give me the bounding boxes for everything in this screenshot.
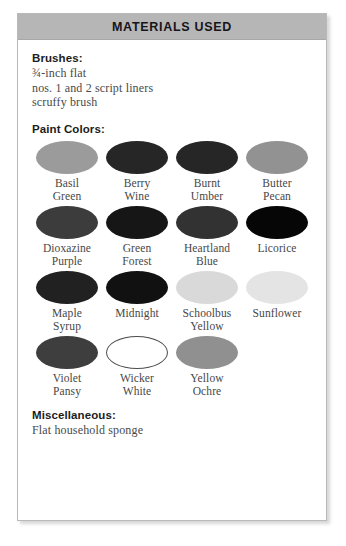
swatch-cell: Violet Pansy bbox=[32, 336, 102, 399]
swatch-label-line1: Heartland bbox=[184, 242, 230, 254]
swatch-label-line1: Violet bbox=[53, 372, 82, 384]
swatch-label: Licorice bbox=[257, 242, 296, 256]
brushes-section: Brushes: ¾-inch flat nos. 1 and 2 script… bbox=[32, 52, 312, 110]
color-swatch-oval bbox=[106, 271, 168, 304]
swatch-cell: Berry Wine bbox=[102, 141, 172, 204]
color-swatch-oval bbox=[36, 206, 98, 239]
color-swatch-oval bbox=[106, 206, 168, 239]
swatch-label: Burnt Umber bbox=[191, 177, 223, 204]
color-swatch-oval bbox=[176, 206, 238, 239]
swatch-label-line1: Wicker bbox=[120, 372, 154, 384]
color-swatch-oval bbox=[246, 206, 308, 239]
swatch-label-line2: Pansy bbox=[53, 385, 82, 399]
color-swatch-oval bbox=[176, 271, 238, 304]
miscellaneous-section: Miscellaneous: Flat household sponge bbox=[32, 409, 312, 438]
swatch-cell: Dioxazine Purple bbox=[32, 206, 102, 269]
swatch-cell: Wicker White bbox=[102, 336, 172, 399]
color-swatch-oval bbox=[106, 141, 168, 174]
swatch-cell: Schoolbus Yellow bbox=[172, 271, 242, 334]
paint-colors-section: Paint Colors: Basil Green bbox=[32, 123, 312, 399]
swatch-label-line2: Forest bbox=[122, 255, 151, 269]
swatch-cell: Sunflower bbox=[242, 271, 312, 334]
swatch-label: Violet Pansy bbox=[53, 372, 82, 399]
color-swatch-oval bbox=[36, 141, 98, 174]
swatch-label-line1: Maple bbox=[52, 307, 82, 319]
swatch-label: Berry Wine bbox=[124, 177, 151, 204]
color-swatch-oval bbox=[246, 141, 308, 174]
swatch-label-line2: Yellow bbox=[183, 320, 232, 334]
swatch-label-line2: Pecan bbox=[262, 190, 291, 204]
panel-body: Brushes: ¾-inch flat nos. 1 and 2 script… bbox=[18, 40, 326, 447]
swatch-cell: Heartland Blue bbox=[172, 206, 242, 269]
swatch-label-line1: Schoolbus bbox=[183, 307, 232, 319]
color-swatch-oval bbox=[106, 336, 168, 369]
swatch-label: Butter Pecan bbox=[262, 177, 291, 204]
swatch-label-line1: Yellow bbox=[190, 372, 223, 384]
brushes-item: nos. 1 and 2 script liners bbox=[32, 81, 312, 96]
swatch-cell: Maple Syrup bbox=[32, 271, 102, 334]
color-swatch-oval bbox=[176, 336, 238, 369]
brushes-item: scruffy brush bbox=[32, 95, 312, 110]
swatch-row: Maple Syrup Midnight bbox=[32, 271, 312, 334]
swatch-cell: Midnight bbox=[102, 271, 172, 334]
swatch-label-line2: Umber bbox=[191, 190, 223, 204]
swatch-label-line1: Berry bbox=[124, 177, 151, 189]
brushes-heading: Brushes: bbox=[32, 52, 312, 64]
paint-colors-heading: Paint Colors: bbox=[32, 123, 312, 135]
paint-swatch-grid: Basil Green Berry Wine bbox=[32, 141, 312, 399]
page-root: MATERIALS USED Brushes: ¾-inch flat nos.… bbox=[0, 0, 346, 546]
swatch-cell: Basil Green bbox=[32, 141, 102, 204]
color-swatch-oval bbox=[36, 271, 98, 304]
swatch-row: Basil Green Berry Wine bbox=[32, 141, 312, 204]
swatch-row: Violet Pansy Wicker White bbox=[32, 336, 312, 399]
color-swatch-oval bbox=[36, 336, 98, 369]
swatch-label: Yellow Ochre bbox=[190, 372, 223, 399]
swatch-label-line1: Sunflower bbox=[253, 307, 302, 319]
swatch-label: Midnight bbox=[115, 307, 159, 321]
swatch-label-line2: Wine bbox=[124, 190, 151, 204]
materials-used-panel: MATERIALS USED Brushes: ¾-inch flat nos.… bbox=[17, 13, 327, 521]
swatch-label-line2: Purple bbox=[43, 255, 91, 269]
swatch-label: Maple Syrup bbox=[52, 307, 82, 334]
swatch-label-line2: Blue bbox=[184, 255, 230, 269]
swatch-label-line1: Dioxazine bbox=[43, 242, 91, 254]
swatch-label: Sunflower bbox=[253, 307, 302, 321]
swatch-label-line1: Butter bbox=[262, 177, 291, 189]
swatch-row: Dioxazine Purple Green Forest bbox=[32, 206, 312, 269]
miscellaneous-heading: Miscellaneous: bbox=[32, 409, 312, 421]
miscellaneous-item: Flat household sponge bbox=[32, 423, 312, 438]
swatch-cell: Green Forest bbox=[102, 206, 172, 269]
page-title: MATERIALS USED bbox=[112, 20, 232, 34]
swatch-label: Wicker White bbox=[120, 372, 154, 399]
swatch-cell: Yellow Ochre bbox=[172, 336, 242, 399]
swatch-cell: Licorice bbox=[242, 206, 312, 269]
swatch-label-line1: Midnight bbox=[115, 307, 159, 319]
swatch-label: Heartland Blue bbox=[184, 242, 230, 269]
swatch-label-line1: Basil bbox=[55, 177, 79, 189]
swatch-label: Green Forest bbox=[122, 242, 151, 269]
swatch-label-line1: Green bbox=[123, 242, 152, 254]
swatch-cell: Butter Pecan bbox=[242, 141, 312, 204]
color-swatch-oval bbox=[176, 141, 238, 174]
brushes-item: ¾-inch flat bbox=[32, 66, 312, 81]
swatch-cell: Burnt Umber bbox=[172, 141, 242, 204]
swatch-label: Dioxazine Purple bbox=[43, 242, 91, 269]
swatch-label-line2: Ochre bbox=[190, 385, 223, 399]
swatch-label-line1: Licorice bbox=[257, 242, 296, 254]
swatch-label: Schoolbus Yellow bbox=[183, 307, 232, 334]
swatch-label: Basil Green bbox=[53, 177, 82, 204]
panel-header: MATERIALS USED bbox=[18, 14, 326, 40]
swatch-label-line2: White bbox=[120, 385, 154, 399]
color-swatch-oval bbox=[246, 271, 308, 304]
swatch-label-line2: Syrup bbox=[52, 320, 82, 334]
swatch-label-line1: Burnt bbox=[194, 177, 221, 189]
swatch-label-line2: Green bbox=[53, 190, 82, 204]
